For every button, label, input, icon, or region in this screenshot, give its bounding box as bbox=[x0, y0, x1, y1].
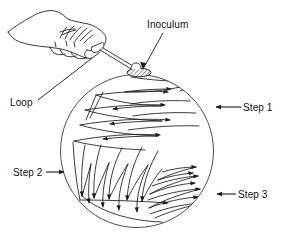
inoculum-label: Inoculum bbox=[147, 19, 188, 30]
hand-holding-loop bbox=[8, 11, 106, 59]
inoculum-leader-line bbox=[140, 33, 163, 69]
step1-label: Step 1 bbox=[243, 102, 273, 113]
step2-label: Step 2 bbox=[13, 167, 43, 178]
streak-plate-figure: Inoculum Loop Step 1 Step 2 Step 3 bbox=[0, 0, 281, 247]
loop-label: Loop bbox=[10, 97, 33, 108]
inoculum-blob bbox=[127, 63, 151, 77]
step3-label: Step 3 bbox=[238, 189, 268, 200]
figure-drawing bbox=[0, 0, 281, 247]
